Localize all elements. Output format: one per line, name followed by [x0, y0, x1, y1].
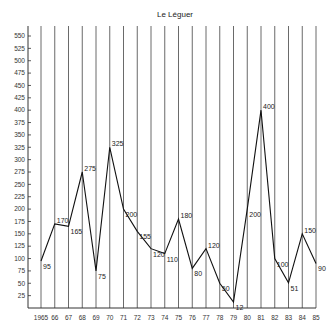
x-tick-label: 70	[106, 314, 114, 321]
y-tick-label: 250	[14, 181, 25, 188]
x-tick-label: 77	[202, 314, 210, 321]
point-label: 50	[222, 285, 230, 292]
x-tick-label: 76	[189, 314, 197, 321]
point-label: 120	[208, 242, 220, 249]
y-tick-label: 100	[14, 255, 25, 262]
point-label: 325	[112, 140, 124, 147]
y-tick-label: 550	[14, 32, 25, 39]
x-tick-label: 80	[244, 314, 252, 321]
point-label: 120	[153, 251, 165, 258]
point-label: 400	[263, 103, 275, 110]
point-label: 75	[98, 273, 106, 280]
y-tick-label: 475	[14, 69, 25, 76]
y-tick-label: 350	[14, 131, 25, 138]
point-label: 200	[126, 211, 138, 218]
y-tick-label: 125	[14, 242, 25, 249]
y-tick-label: 400	[14, 106, 25, 113]
point-label: 155	[139, 233, 151, 240]
point-label: 170	[57, 217, 69, 224]
x-tick-label: 81	[257, 314, 265, 321]
x-tick-label: 67	[65, 314, 73, 321]
y-tick-label: 25	[18, 292, 26, 299]
y-tick-label: 200	[14, 205, 25, 212]
x-tick-label: 74	[161, 314, 169, 321]
x-tick-label: 68	[79, 314, 87, 321]
point-label: 80	[194, 270, 202, 277]
x-tick-label: 84	[299, 314, 307, 321]
point-label: 95	[43, 263, 51, 270]
line-chart: Le Léguer 255075100125150175200225250275…	[0, 0, 330, 334]
point-label: 110	[167, 256, 178, 263]
x-tick-label: 73	[147, 314, 155, 321]
y-tick-label: 525	[14, 45, 25, 52]
point-label: 51	[291, 285, 299, 292]
point-label: 200	[249, 211, 261, 218]
chart-title: Le Léguer	[157, 10, 193, 19]
y-tick-label: 175	[14, 218, 25, 225]
point-label: 90	[318, 265, 326, 272]
y-tick-label: 450	[14, 82, 25, 89]
x-tick-label: 1965	[34, 314, 49, 321]
point-label: 100	[277, 261, 289, 268]
y-tick-label: 275	[14, 168, 25, 175]
vertical-gridlines	[41, 26, 316, 308]
x-tick-label: 71	[120, 314, 128, 321]
y-tick-label: 325	[14, 144, 25, 151]
x-tick-label: 85	[312, 314, 320, 321]
y-tick-label: 225	[14, 193, 25, 200]
y-tick-label: 50	[18, 280, 26, 287]
x-tick-label: 78	[216, 314, 224, 321]
y-tick-label: 500	[14, 57, 25, 64]
x-tick-label: 75	[175, 314, 183, 321]
x-tick-label: 79	[230, 314, 238, 321]
y-tick-label: 425	[14, 94, 25, 101]
point-label: 150	[304, 227, 316, 234]
x-tick-label: 66	[51, 314, 59, 321]
point-label: 275	[84, 165, 96, 172]
point-label: 180	[181, 212, 193, 219]
x-tick-label: 83	[285, 314, 293, 321]
x-axis: 1965666768697071727374757677787980818283…	[28, 308, 320, 321]
y-tick-label: 150	[14, 230, 25, 237]
y-tick-label: 375	[14, 119, 25, 126]
point-label: 12	[236, 304, 244, 311]
y-tick-label: 300	[14, 156, 25, 163]
point-label: 165	[71, 228, 83, 235]
x-tick-label: 69	[92, 314, 100, 321]
y-axis: 2550751001251501752002252502753003253503…	[14, 26, 31, 308]
x-tick-label: 82	[271, 314, 279, 321]
x-tick-label: 72	[134, 314, 142, 321]
y-tick-label: 75	[18, 267, 26, 274]
point-labels: 9517016527575325200155120110180801205012…	[43, 103, 326, 311]
